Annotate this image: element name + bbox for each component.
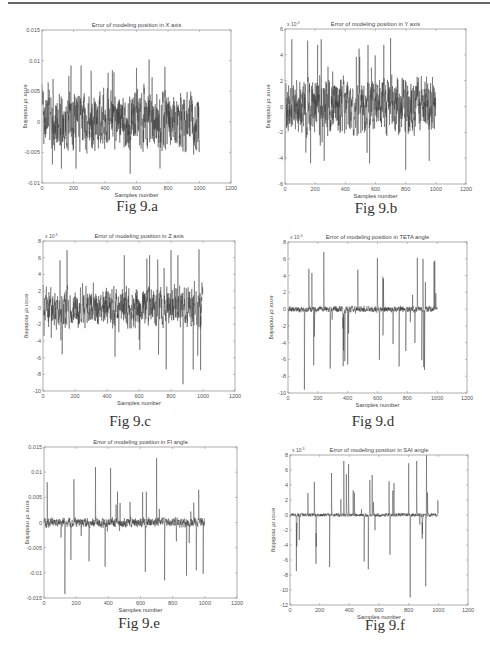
x-tick-label: 400 <box>104 600 113 606</box>
y-tick-label: -2 <box>278 129 283 135</box>
y-tick-label: 4 <box>38 271 41 277</box>
x-tick-label: 600 <box>132 185 141 191</box>
x-tick-label: 800 <box>168 600 177 606</box>
caption-9c: Fig 9.c <box>109 413 151 430</box>
figure-9a: 020040060080010001200-0.01-0.00500.0050.… <box>42 30 231 183</box>
y-tick-label: -0.01 <box>27 180 40 186</box>
y-tick-label: 4 <box>283 273 286 279</box>
y-tick-label: 0.015 <box>28 444 42 450</box>
x-tick-label: 800 <box>401 186 410 192</box>
x-tick-label: 400 <box>100 185 109 191</box>
y-tick-label: 6 <box>285 467 288 473</box>
y-tick-label: -6 <box>278 181 283 187</box>
x-tick-label: 800 <box>403 395 412 401</box>
data-trace <box>43 249 203 384</box>
x-tick-label: 0 <box>283 186 286 192</box>
x-tick-label: 1200 <box>229 393 241 399</box>
y-tick-label: 0 <box>37 119 40 125</box>
y-tick-label: 0 <box>38 305 41 311</box>
x-tick-label: 0 <box>42 600 45 606</box>
x-tick-label: 400 <box>102 393 111 399</box>
x-tick-label: 600 <box>136 600 145 606</box>
y-tick-label: -4 <box>278 155 283 161</box>
x-tick-label: 1200 <box>461 395 473 401</box>
y-tick-label: -4 <box>36 338 41 344</box>
y-multiplier-label: x 10-3 <box>287 21 300 28</box>
y-axis-label: error of modeling <box>25 501 31 545</box>
y-tick-label: -0.005 <box>24 149 40 155</box>
y-tick-label: -2 <box>283 527 288 533</box>
y-tick-label: 0 <box>283 306 286 312</box>
page-top-rule <box>8 2 490 4</box>
y-multiplier-label: x 10-3 <box>290 234 303 241</box>
y-tick-label: -12 <box>280 602 288 608</box>
chart-title: Error of modeling position in Y axis <box>331 21 420 27</box>
y-tick-label: 2 <box>283 289 286 295</box>
y-tick-label: 4 <box>285 482 288 488</box>
figure-9f: 020040060080010001200-12-10-8-6-4-202468… <box>290 455 468 605</box>
y-tick-label: 0 <box>39 520 42 526</box>
x-tick-label: 400 <box>341 186 350 192</box>
y-tick-label: 0.005 <box>28 494 42 500</box>
chart-title: Error of modeling position in FI angle <box>93 439 188 445</box>
x-tick-label: 800 <box>163 185 172 191</box>
caption-9d: Fig 9.d <box>352 413 395 430</box>
y-tick-label: -8 <box>281 373 286 379</box>
y-tick-label: -2 <box>36 321 41 327</box>
x-tick-label: 1200 <box>231 600 243 606</box>
x-tick-label: 400 <box>343 395 352 401</box>
y-multiplier-label: x 10-3 <box>292 447 305 454</box>
data-trace <box>44 458 205 594</box>
x-tick-label: 200 <box>313 395 322 401</box>
x-tick-label: 1000 <box>430 186 442 192</box>
plot-frame <box>290 455 468 605</box>
x-tick-label: 1200 <box>462 607 474 613</box>
x-axis-label: Samples number <box>117 400 161 406</box>
y-tick-label: -6 <box>36 355 41 361</box>
y-tick-label: 8 <box>285 452 288 458</box>
y-tick-label: -6 <box>281 356 286 362</box>
data-trace <box>290 455 438 598</box>
figure-9c: 020040060080010001200-10-8-6-4-202468Err… <box>43 241 235 391</box>
y-tick-label: 6 <box>280 26 283 32</box>
y-tick-label: 6 <box>38 255 41 261</box>
figure-9b: 020040060080010001200-6-4-20246Error of … <box>285 29 466 184</box>
y-tick-label: 0.01 <box>29 58 40 64</box>
x-tick-label: 200 <box>315 607 324 613</box>
y-tick-label: -0.005 <box>26 545 42 551</box>
x-tick-label: 600 <box>373 395 382 401</box>
y-tick-label: 0.015 <box>26 27 40 33</box>
x-tick-label: 200 <box>70 393 79 399</box>
x-tick-label: 1000 <box>431 395 443 401</box>
data-trace <box>288 252 437 390</box>
y-tick-label: -10 <box>280 587 288 593</box>
y-tick-label: -8 <box>283 572 288 578</box>
caption-9f: Fig 9.f <box>365 617 405 634</box>
y-tick-label: 0.01 <box>31 469 42 475</box>
x-tick-label: 1200 <box>225 185 237 191</box>
chart-title: Error of modeling position in Z axis <box>94 233 183 239</box>
x-tick-label: 600 <box>374 607 383 613</box>
x-axis-label: Samples number <box>356 402 400 408</box>
data-trace <box>42 59 199 173</box>
x-tick-label: 0 <box>286 395 289 401</box>
y-tick-label: 0 <box>280 104 283 110</box>
chart-title: Error of modeling position in X axis <box>92 22 182 28</box>
caption-9a: Fig 9.a <box>116 198 158 215</box>
x-tick-label: 0 <box>288 607 291 613</box>
y-axis-label: error of modeling <box>269 296 275 340</box>
x-axis-label: Samples number <box>119 607 163 613</box>
x-tick-label: 600 <box>134 393 143 399</box>
y-tick-label: 8 <box>38 238 41 244</box>
x-tick-label: 1000 <box>197 393 209 399</box>
y-tick-label: -4 <box>283 542 288 548</box>
y-tick-label: -6 <box>283 557 288 563</box>
y-tick-label: -10 <box>278 390 286 396</box>
y-axis-label: error of modeling <box>266 85 272 129</box>
figure-9d: 020040060080010001200-10-8-6-4-202468Err… <box>288 242 467 393</box>
figure-9e: 020040060080010001200-0.015-0.01-0.00500… <box>44 447 237 598</box>
y-tick-label: 8 <box>283 239 286 245</box>
y-tick-label: -0.015 <box>26 595 42 601</box>
x-tick-label: 800 <box>404 607 413 613</box>
caption-9e: Fig 9.e <box>118 615 160 632</box>
